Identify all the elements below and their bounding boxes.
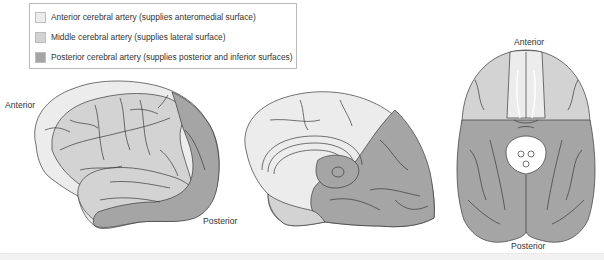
medial-brain-view bbox=[245, 92, 435, 227]
inferior-brain-view bbox=[457, 50, 595, 242]
inferior-anterior-label: Anterior bbox=[514, 37, 544, 47]
lateral-posterior-label: Posterior bbox=[203, 216, 237, 226]
lateral-brain-view bbox=[35, 81, 219, 229]
lateral-anterior-label: Anterior bbox=[5, 100, 35, 110]
inferior-posterior-label: Posterior bbox=[511, 241, 545, 251]
bottom-divider bbox=[0, 253, 604, 260]
